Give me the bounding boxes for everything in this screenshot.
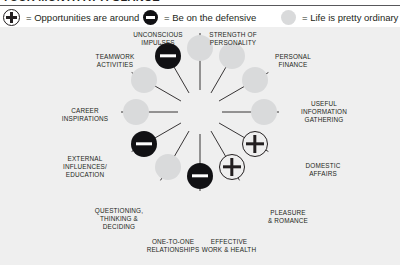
- sector-label-unconscious-impulses: UNCONSCIOUS IMPULSES: [131, 31, 185, 47]
- legend-label-opportunities: = Opportunities are around: [26, 12, 139, 23]
- month-at-a-glance-figure: YOUR MONTH AT A GLANCE = Opportunities a…: [0, 0, 400, 265]
- sector-label-one-to-one: ONE-TO-ONE RELATIONSHIPS: [144, 238, 202, 254]
- sector-node-effective-work-health: [187, 163, 213, 189]
- sector-node-questioning-thinking: [131, 131, 157, 157]
- legend-label-ordinary: = Life is pretty ordinary: [302, 12, 398, 23]
- legend-item-defensive: = Be on the defensive: [143, 8, 256, 27]
- sector-node-one-to-one: [155, 154, 181, 180]
- sector-label-strength-of-personality: STRENGTH OF PERSONALITY: [204, 31, 262, 47]
- title-divider: [0, 5, 400, 6]
- minus-circle-icon: [143, 10, 158, 25]
- sector-node-useful-information: [251, 99, 277, 125]
- page-title: YOUR MONTH AT A GLANCE: [0, 0, 400, 4]
- figure-title-strip: YOUR MONTH AT A GLANCE: [0, 0, 400, 4]
- sector-label-personal-finance: PERSONAL FINANCE: [265, 53, 321, 69]
- plus-circle-icon: [3, 9, 20, 26]
- twelve-sector-wheel: [121, 33, 279, 191]
- sector-label-effective-work-health: EFFECTIVE WORK & HEALTH: [198, 238, 260, 254]
- sector-label-career-inspirations: CAREER INSPIRATIONS: [56, 107, 114, 123]
- sector-node-domestic-affairs: [242, 131, 268, 157]
- sector-label-questioning-thinking: QUESTIONING, THINKING & DECIDING: [90, 207, 148, 232]
- sector-label-pleasure-romance: PLEASURE & ROMANCE: [259, 209, 317, 225]
- sector-node-external-influences: [123, 99, 149, 125]
- legend-item-ordinary: = Life is pretty ordinary: [281, 8, 398, 27]
- legend: = Opportunities are around = Be on the d…: [0, 8, 400, 27]
- legend-label-defensive: = Be on the defensive: [164, 12, 256, 23]
- legend-item-opportunities: = Opportunities are around: [3, 8, 139, 27]
- wheel-panel: UNCONSCIOUS IMPULSES STRENGTH OF PERSONA…: [0, 27, 400, 265]
- sector-node-personal-finance: [242, 67, 268, 93]
- sector-label-external-influences: EXTERNAL INFLUENCES/ EDUCATION: [56, 155, 114, 180]
- sector-label-useful-information: USEFUL INFORMATION GATHERING: [293, 100, 355, 125]
- plain-circle-icon: [281, 10, 296, 25]
- sector-node-pleasure-romance: [219, 154, 245, 180]
- sector-node-career-inspirations: [131, 67, 157, 93]
- sector-label-teamwork-activities: TEAMWORK ACTIVITIES: [86, 53, 144, 69]
- sector-label-domestic-affairs: DOMESTIC AFFAIRS: [295, 162, 351, 178]
